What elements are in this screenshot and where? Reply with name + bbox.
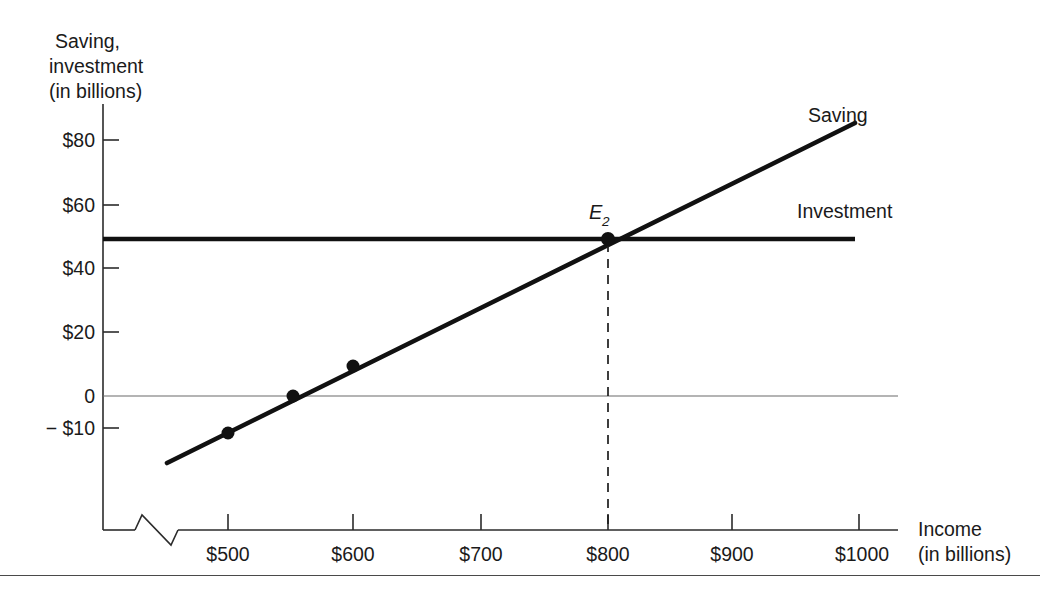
y-axis-title-line3: (in billions) xyxy=(49,80,142,102)
x-tick-label-900: $900 xyxy=(710,543,754,565)
y-tick-label-neg10: − $10 xyxy=(46,417,95,439)
equilibrium-point-marker xyxy=(601,232,615,246)
x-tick-label-700: $700 xyxy=(459,543,503,565)
y-tick-label-0: 0 xyxy=(84,385,95,407)
saving-investment-chart-figure: Saving, investment (in billions) $80 $60… xyxy=(0,0,1040,590)
equilibrium-label-subscript: 2 xyxy=(601,214,610,229)
y-tick-label-20: $20 xyxy=(62,321,95,343)
y-axis-title-line2: investment xyxy=(49,55,144,77)
x-axis-title: Income xyxy=(918,518,982,540)
x-tick-label-600: $600 xyxy=(331,543,375,565)
investment-curve-label: Investment xyxy=(797,200,893,222)
x-tick-label-1000: $1000 xyxy=(835,543,889,565)
x-axis-break-zigzag xyxy=(135,515,178,545)
page-divider-bottom xyxy=(0,575,1040,576)
chart-canvas: Saving, investment (in billions) $80 $60… xyxy=(0,0,1040,590)
saving-curve xyxy=(167,123,855,463)
y-tick-label-60: $60 xyxy=(62,194,95,216)
y-tick-label-80: $80 xyxy=(62,129,95,151)
x-axis-title-sub: (in billions) xyxy=(918,543,1011,565)
y-axis-title-line1: Saving, xyxy=(55,30,120,52)
data-point-marker xyxy=(347,360,360,373)
x-tick-label-800: $800 xyxy=(586,543,630,565)
x-tick-label-500: $500 xyxy=(206,543,250,565)
equilibrium-label: E xyxy=(589,201,603,223)
data-point-marker xyxy=(287,390,300,403)
saving-curve-label: Saving xyxy=(808,104,868,126)
data-point-marker xyxy=(222,427,235,440)
y-tick-label-40: $40 xyxy=(62,257,95,279)
